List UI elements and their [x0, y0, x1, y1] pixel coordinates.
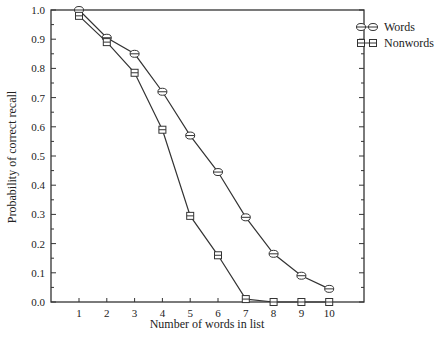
legend-label: Words — [384, 20, 415, 34]
x-tick-label: 1 — [76, 307, 82, 319]
x-axis-title: Number of words in list — [150, 317, 265, 331]
data-series — [75, 7, 334, 306]
y-tick-label: 1.0 — [31, 4, 45, 16]
plot-border — [51, 10, 364, 302]
series-line — [79, 16, 329, 302]
y-tick-label: 0.2 — [31, 238, 45, 250]
x-tick-label: 9 — [299, 307, 305, 319]
series-line — [79, 10, 329, 289]
x-tick-label: 3 — [132, 307, 138, 319]
y-tick-label: 0.4 — [31, 179, 45, 191]
y-tick-label: 0.7 — [31, 92, 45, 104]
legend: WordsNonwords — [357, 20, 435, 50]
legend-item-nonwords: Nonwords — [357, 36, 434, 50]
y-tick-label: 0.8 — [31, 62, 45, 74]
recall-line-chart: 0.00.10.20.30.40.50.60.70.80.91.0 123456… — [0, 0, 441, 338]
x-tick-label: 10 — [324, 307, 336, 319]
y-tick-label: 0.6 — [31, 121, 45, 133]
x-tick-label: 8 — [271, 307, 277, 319]
y-axis-title: Probability of correct recall — [5, 90, 19, 223]
y-tick-label: 0.3 — [31, 208, 45, 220]
y-tick-label: 0.1 — [31, 267, 45, 279]
y-tick-label: 0.0 — [31, 296, 45, 308]
legend-item-words: Words — [357, 20, 416, 34]
legend-label: Nonwords — [384, 36, 434, 50]
y-axis: 0.00.10.20.30.40.50.60.70.80.91.0 — [31, 4, 364, 308]
x-axis: 12345678910 — [76, 298, 335, 319]
y-tick-label: 0.9 — [31, 33, 45, 45]
series-nonwords — [76, 12, 333, 305]
plot-frame — [51, 10, 364, 302]
x-tick-label: 2 — [104, 307, 110, 319]
y-tick-label: 0.5 — [31, 150, 45, 162]
